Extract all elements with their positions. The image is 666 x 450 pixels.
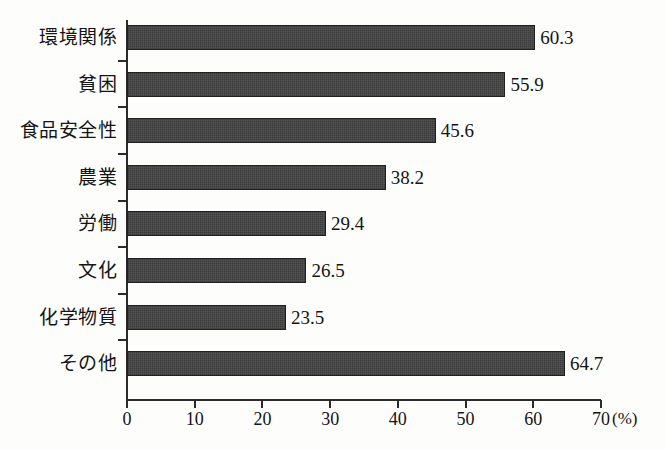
y-tick-2 [118, 153, 127, 155]
y-tick-4 [118, 246, 127, 248]
x-tick-60 [532, 400, 534, 408]
x-tick-label-60: 60 [524, 409, 542, 429]
x-tick-70 [600, 400, 602, 408]
value-label-5: 26.5 [311, 258, 344, 283]
y-tick-0 [118, 60, 127, 62]
category-label-3: 農業 [78, 165, 117, 190]
bar-3 [127, 165, 386, 190]
category-label-5: 文化 [78, 258, 117, 283]
y-tick-1 [118, 106, 127, 108]
plot-area: 環境関係貧困食品安全性農業労働文化化学物質その他 60.355.945.638.… [0, 0, 666, 450]
value-label-1: 55.9 [510, 72, 543, 97]
bar-chart: 環境関係貧困食品安全性農業労働文化化学物質その他 60.355.945.638.… [0, 0, 666, 450]
x-tick-label-30: 30 [321, 409, 339, 429]
value-label-4: 29.4 [331, 211, 364, 236]
bar-1 [127, 72, 505, 97]
category-label-2: 食品安全性 [20, 118, 118, 143]
value-label-6: 23.5 [291, 305, 324, 330]
category-label-4: 労働 [78, 211, 117, 236]
bar-5 [127, 258, 306, 283]
x-tick-50 [465, 400, 467, 408]
bar-6 [127, 305, 286, 330]
x-tick-label-70: 70 [592, 409, 610, 429]
x-tick-20 [261, 400, 263, 408]
x-tick-label-20: 20 [253, 409, 271, 429]
category-label-1: 貧困 [78, 72, 117, 97]
x-tick-30 [329, 400, 331, 408]
x-tick-10 [194, 400, 196, 408]
x-tick-label-10: 10 [186, 409, 204, 429]
value-label-2: 45.6 [441, 118, 474, 143]
value-label-0: 60.3 [540, 25, 573, 50]
y-tick-3 [118, 200, 127, 202]
bar-2 [127, 118, 436, 143]
x-axis-line [126, 399, 601, 401]
x-tick-label-40: 40 [389, 409, 407, 429]
x-axis-unit-label: (%) [612, 409, 637, 429]
value-label-7: 64.7 [570, 351, 603, 376]
value-label-3: 38.2 [391, 165, 424, 190]
category-label-7: その他 [59, 351, 118, 376]
x-tick-label-50: 50 [457, 409, 475, 429]
bar-4 [127, 211, 326, 236]
x-tick-label-0: 0 [123, 409, 132, 429]
y-tick-5 [118, 293, 127, 295]
category-label-0: 環境関係 [39, 25, 117, 50]
y-tick-6 [118, 339, 127, 341]
x-tick-0 [126, 400, 128, 408]
bar-7 [127, 351, 565, 376]
x-tick-40 [397, 400, 399, 408]
category-label-6: 化学物質 [39, 305, 117, 330]
bar-0 [127, 25, 535, 50]
